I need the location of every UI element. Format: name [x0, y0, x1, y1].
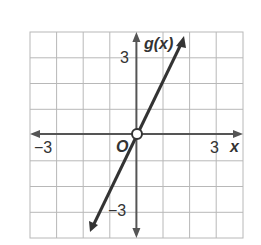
open-point — [132, 129, 142, 139]
coordinate-plane — [0, 0, 261, 245]
origin-label: O — [116, 139, 128, 155]
x-tick-3: 3 — [210, 140, 219, 156]
x-tick-neg3: −3 — [34, 140, 52, 156]
y-tick-neg3: −3 — [108, 203, 126, 219]
x-axis-label: x — [230, 139, 239, 155]
y-tick-3: 3 — [120, 50, 129, 66]
y-axis-label: g(x) — [144, 36, 173, 52]
